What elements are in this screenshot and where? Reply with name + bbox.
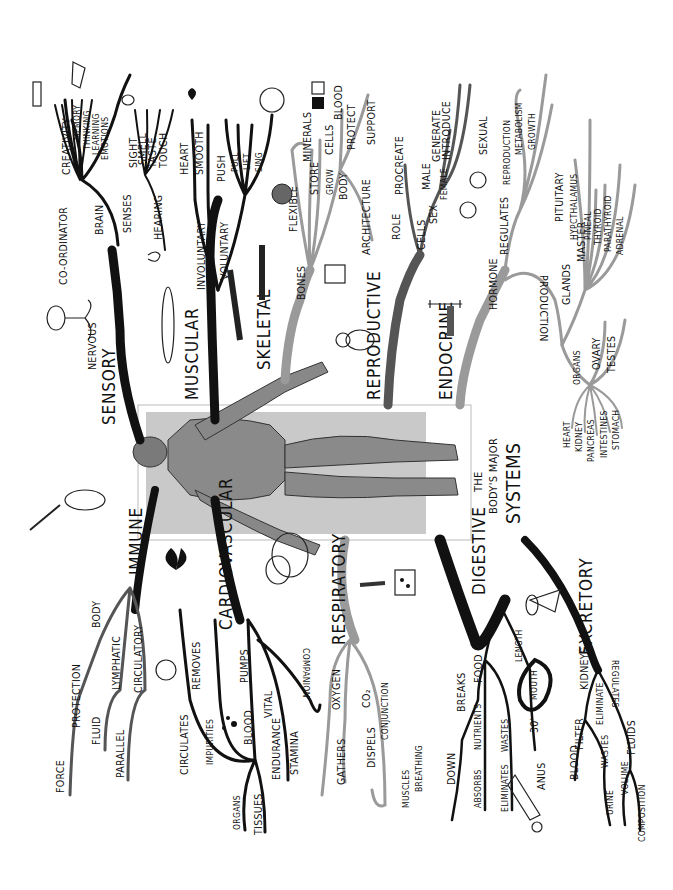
fluids-label: FLUIDS [625,720,637,755]
regulates-item-sexual: SEXUAL [477,116,489,155]
eliminate-label: ELIMINATE [595,682,605,725]
minerals-label: MINERALS [301,112,313,162]
mind-map: THE BODY'S MAJOR SYSTEMS SENSORY MUSCULA… [0,0,673,890]
oxygen-label: OXYGEN [330,669,342,710]
involuntary-label: INVOLUNTARY [195,221,207,290]
bones-label: BONES [295,266,307,300]
protection-label: PROTECTION [70,664,82,728]
involuntary-item-smooth: SMOOTH [193,131,205,175]
digestive-label: DIGESTIVE [469,506,489,595]
regulates-item-growth: GROWTH [527,113,537,150]
reproductive-branch [388,255,420,405]
stamina-label: STAMINA [288,731,300,775]
senses-label: SENSES [121,194,133,233]
dispels-label: DISPELS [365,727,377,768]
cv-blood-label: BLOOD [242,710,254,745]
cardiovascular-label: CARDIOVASCULAR [216,478,236,630]
gland-item-hypcthalamus: HYPCTHALAMUS [569,174,579,240]
circulation-loop-icon [156,660,176,680]
pumps-label: PUMPS [238,649,250,683]
immune-body-label: BODY [90,601,102,628]
heart-icon [188,88,196,100]
lymphatic-label: LYMPHATIC [110,636,122,690]
endurance-label: ENDURANCE [270,718,282,780]
voluntary-item-push: PUSH [215,155,227,182]
vital-label: VITAL [262,690,274,718]
regulates-item-metabolism: METABOLISM [514,102,524,155]
conjunction-label: CONJUNCTION [380,682,390,740]
gland-item-thyroid: THYROID [593,208,603,246]
organs-item-kidney: KIDNEY [574,422,584,452]
volume-label: VOLUME [620,761,630,795]
gathers-label: GATHERS [335,739,347,785]
food-label: FOOD [472,654,484,683]
impurities-label: IMPURITIES [205,719,215,765]
composition-label: COMPOSITION [637,784,647,842]
muscle-fiber-icon [162,287,174,363]
brain-label: BRAIN [93,205,105,235]
gland-item-parathyroid: PARATHYROID [603,195,613,252]
book-icon [72,62,85,88]
organs-label: ORGANS [572,350,582,385]
immune-label: IMMUNE [126,507,146,575]
co-ordinator-label: CO-ORDINATOR [57,207,69,285]
fluid-label: FLUID [90,716,102,745]
organs-item-testes: TESTES [605,336,617,374]
organs-item-stomach: STOMACH [611,410,621,450]
architecture-label: ARCHITECTURE [360,179,372,255]
regulates-label: REGULATES [498,197,510,255]
muscular-label: MUSCULAR [182,308,202,400]
mouth-label: MOUTH [529,670,539,700]
hormone-label: HORMONE [487,258,499,310]
organs-item-pancreas: PANCREAS [586,419,596,462]
grow-label: GROW [325,169,335,195]
eliminates-label: ELIMINATES [500,764,510,812]
title-line1: THE [472,471,485,493]
organs-label: ORGANS [232,795,242,830]
white-square-icon [312,82,324,94]
companion-label: COMPANION [301,648,311,698]
sex-label: SEX [427,204,439,224]
building-frame-icon [325,265,345,283]
gland-item-pineal: PINEAL [583,211,593,240]
kidneys-label: KIDNEYS [578,647,590,690]
protect-label: PROTECT [345,104,357,150]
heart-loop-icon [166,548,187,570]
voluntary-item-sing: SING [254,152,264,172]
urine-label: URINE [605,790,615,815]
female-label: FEMALE [439,168,449,200]
male-label: MALE [420,163,432,190]
blood-label: BLOOD [332,85,344,120]
down-label: DOWN [445,753,457,785]
nervous-label: NERVOUS [86,322,98,370]
thirty-feet-label: 30' [528,717,540,733]
funnel-beaker-icon [526,590,560,615]
brain-item-memory: MEMORY [72,105,82,140]
anus-label: ANUS [535,762,547,790]
skeletal-subtree: BONES FLEXIBLE STORE MINERALS GROW CELLS… [272,82,377,300]
sense-item-touch: TOUCH [157,133,169,169]
title-line3: SYSTEMS [502,443,524,524]
organs-item-ovary: OVARY [590,337,602,370]
excretory-regulates-label: REGULATES [610,660,620,708]
pencil-icon [33,82,41,106]
voluntary-item-pull: PULL [230,152,240,172]
procreate-label: PROCREATE [393,136,405,195]
cells-label: CELLS [415,219,427,250]
role-label: ROLE [390,214,402,240]
food-processor-icon [395,570,415,595]
skeletal-label: SKELETAL [254,289,274,370]
force-label: FORCE [54,760,66,793]
organs-item-heart: HEART [562,421,572,448]
body-label: BODY [337,173,349,200]
excretory-wastes-label: WASTES [600,735,610,768]
bone-cross-section-icon [272,184,292,204]
parallel-label: PARALLEL [114,729,126,778]
regulates-item-reproduction: REPRODUCTION [502,120,512,185]
digestive-wastes-label: WASTES [500,719,510,752]
introduce-label: INTRODUCE [440,101,452,160]
reproductive-label: REPRODUCTIVE [364,271,384,400]
store-label: STORE [308,162,320,195]
voluntary-item-lift: LIFT [242,153,252,170]
cardiovascular-subtree: PUMPS BLOOD REMOVES IMPURITIES CIRCULATE… [156,548,320,836]
